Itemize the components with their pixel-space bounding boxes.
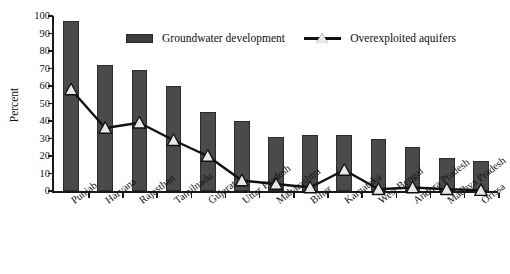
y-axis-tick-mark: [48, 138, 53, 140]
chart-figure: Percent 0102030405060708090100 Groundwat…: [0, 0, 510, 274]
y-axis-tick-label: 70: [24, 64, 50, 74]
bar: [234, 121, 250, 191]
bar: [336, 135, 352, 191]
y-axis-title-label: Percent: [8, 88, 20, 122]
bar: [132, 70, 148, 191]
y-axis-tick-mark: [48, 50, 53, 52]
y-axis-tick-mark: [48, 68, 53, 70]
y-axis-tick-mark: [48, 85, 53, 87]
y-axis-tick-mark: [48, 15, 53, 17]
plot-area: [52, 16, 498, 193]
y-axis-tick-label: 30: [24, 134, 50, 144]
y-axis-tick-label: 20: [24, 151, 50, 161]
y-axis-tick-mark: [48, 103, 53, 105]
y-axis-tick-label: 10: [24, 169, 50, 179]
y-axis-tick-label: 40: [24, 116, 50, 126]
y-axis-tick-mark: [48, 155, 53, 157]
y-axis-tick-mark: [48, 190, 53, 192]
y-axis-tick-label: 50: [24, 99, 50, 109]
y-axis-tick-label: 0: [24, 186, 50, 196]
y-axis-line: [52, 16, 54, 193]
y-axis-tick-mark: [48, 120, 53, 122]
x-axis-tick-labels: PunjabHaryanaRajasthanTamilnaduGujaratUt…: [52, 193, 498, 273]
y-axis-tick-label: 90: [24, 29, 50, 39]
bar: [97, 65, 113, 191]
y-axis-tick-label: 100: [24, 11, 50, 21]
y-axis-tick-labels: 0102030405060708090100: [20, 0, 50, 274]
bar: [63, 21, 79, 191]
y-axis-tick-mark: [48, 33, 53, 35]
y-axis-tick-label: 60: [24, 81, 50, 91]
y-axis-tick-mark: [48, 173, 53, 175]
y-axis-tick-label: 80: [24, 46, 50, 56]
